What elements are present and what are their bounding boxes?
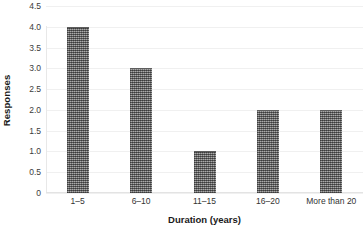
y-axis-tick-labels: 00.51.01.52.02.53.03.54.04.5 <box>14 0 44 200</box>
x-axis-tick-labels: 1–56–1011–1516–20More than 20 <box>46 196 363 212</box>
y-axis-title: Responses <box>0 0 14 200</box>
gridline <box>46 193 363 194</box>
y-axis-tick-label: 1.0 <box>29 146 41 156</box>
y-axis-tick-label: 3.5 <box>29 43 41 53</box>
x-axis-tick-label: 11–15 <box>193 196 216 206</box>
y-axis-tick-label: 4.5 <box>29 1 41 11</box>
y-axis-tick-label: 0.5 <box>29 167 41 177</box>
y-axis-tick-label: 1.5 <box>29 126 41 136</box>
y-axis-tick-label: 0 <box>36 188 41 198</box>
y-axis-tick-label: 3.0 <box>29 63 41 73</box>
y-axis-tick-label: 4.0 <box>29 22 41 32</box>
x-axis-tick-label: 6–10 <box>132 196 151 206</box>
x-axis-tick-label: More than 20 <box>306 196 356 206</box>
bar <box>67 27 89 193</box>
x-axis-tick-label: 1–5 <box>71 196 85 206</box>
bars-layer <box>46 6 363 193</box>
y-axis-title-label: Responses <box>2 74 13 126</box>
bar <box>194 151 216 193</box>
x-axis-title: Duration (years) <box>46 214 363 225</box>
bar <box>320 110 342 193</box>
y-axis-tick-label: 2.0 <box>29 105 41 115</box>
y-axis-tick-label: 2.5 <box>29 84 41 94</box>
bar <box>130 68 152 193</box>
bar <box>257 110 279 193</box>
plot-area <box>46 6 363 193</box>
bar-chart: Responses 00.51.01.52.02.53.03.54.04.5 1… <box>0 0 363 239</box>
x-axis-tick-label: 16–20 <box>256 196 280 206</box>
